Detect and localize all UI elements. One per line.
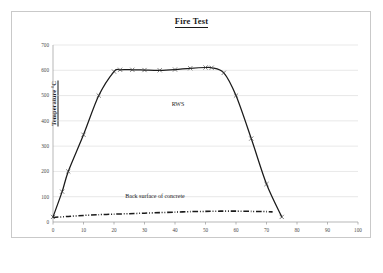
y-tick-label-5: 500 bbox=[41, 92, 49, 98]
plot-area: 0100200300400500600700 01020304050607080… bbox=[0, 0, 383, 273]
series-label-rws: RWS bbox=[172, 101, 185, 107]
x-tick-label-2: 20 bbox=[111, 227, 117, 233]
y-tick-label-group: 0100200300400500600700 bbox=[41, 42, 49, 225]
series-label-concrete: Back surface of concrete bbox=[125, 193, 185, 199]
y-tick-label-0: 0 bbox=[46, 219, 49, 225]
axis-line-group bbox=[53, 45, 358, 222]
chart-figure: Fire Test Temperature °C 010020030040050… bbox=[0, 0, 383, 273]
x-tick-label-4: 40 bbox=[172, 227, 178, 233]
y-tick-label-6: 600 bbox=[41, 67, 49, 73]
x-tick-label-1: 10 bbox=[81, 227, 87, 233]
x-tick-label-3: 30 bbox=[142, 227, 148, 233]
x-tick-label-8: 80 bbox=[294, 227, 300, 233]
x-tick-label-0: 0 bbox=[52, 227, 55, 233]
x-tick-label-9: 90 bbox=[325, 227, 331, 233]
x-tick-mark-group bbox=[53, 222, 358, 225]
data-marker-0-14 bbox=[222, 71, 226, 75]
x-tick-label-10: 100 bbox=[354, 227, 362, 233]
y-tick-label-7: 700 bbox=[41, 42, 49, 48]
data-marker-0-18 bbox=[280, 215, 284, 219]
data-line-concrete bbox=[53, 211, 273, 217]
y-tick-label-4: 400 bbox=[41, 118, 49, 124]
y-tick-label-1: 100 bbox=[41, 194, 49, 200]
x-tick-label-6: 60 bbox=[233, 227, 239, 233]
x-tick-label-5: 50 bbox=[203, 227, 209, 233]
y-tick-label-2: 200 bbox=[41, 168, 49, 174]
y-tick-label-3: 300 bbox=[41, 143, 49, 149]
x-tick-label-7: 70 bbox=[264, 227, 270, 233]
x-tick-label-group: 0102030405060708090100 bbox=[52, 227, 363, 233]
